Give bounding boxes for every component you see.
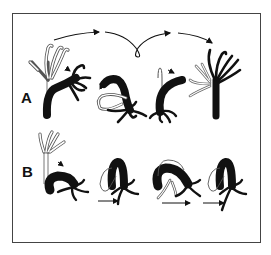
hydra-b-stage-3 [157,160,200,203]
hydra-a-stage-1 [30,45,90,115]
hydra-a-stage-3 [150,68,182,122]
hydra-b-stage-1 [40,132,88,200]
hydra-a-stage-4 [190,50,240,116]
hydra-b-stage-2 [98,162,138,204]
hydra-b-stage-4 [203,162,246,210]
hydra-illustration [0,0,271,255]
row-a-arrows [54,32,212,57]
hydra-a-stage-2 [98,79,146,122]
